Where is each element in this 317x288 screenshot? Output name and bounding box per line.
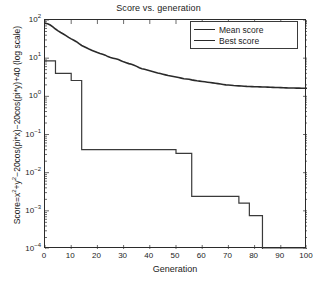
x-axis-tick-labels: 0102030405060708090100 — [0, 251, 317, 265]
legend-item-mean-score[interactable]: Mean score — [194, 24, 294, 35]
y-tick-label: 100 — [29, 91, 41, 100]
plot-svg — [45, 20, 307, 249]
legend-line-swatch-best — [194, 40, 215, 41]
x-tick-label: 10 — [66, 251, 75, 260]
x-tick-label: 50 — [171, 251, 180, 260]
x-axis-label: Generation — [44, 264, 306, 274]
y-tick-label: 102 — [29, 15, 41, 24]
series-line-best-score — [45, 61, 307, 249]
x-tick-label: 100 — [299, 251, 312, 260]
legend-line-swatch-mean — [194, 29, 215, 30]
chart-title: Score vs. generation — [0, 3, 317, 13]
y-tick-label: 101 — [29, 53, 41, 62]
y-axis-tick-labels: 10210110010−110−210−310−4 — [0, 0, 41, 288]
legend-item-best-score[interactable]: Best score — [194, 35, 294, 46]
legend-label-mean: Mean score — [219, 25, 263, 35]
x-tick-label: 30 — [118, 251, 127, 260]
plot-area — [44, 19, 306, 248]
x-tick-label: 60 — [197, 251, 206, 260]
x-tick-label: 20 — [92, 251, 101, 260]
y-tick-label: 10−1 — [25, 129, 41, 138]
x-tick-label: 80 — [249, 251, 258, 260]
figure-canvas: Score vs. generation Score=x2+y2−20cos(p… — [0, 0, 317, 288]
legend: Mean score Best score — [190, 21, 298, 49]
legend-label-best: Best score — [219, 36, 259, 46]
x-tick-label: 90 — [275, 251, 284, 260]
x-tick-label: 40 — [144, 251, 153, 260]
y-tick-label: 10−3 — [25, 205, 41, 214]
x-tick-label: 70 — [223, 251, 232, 260]
x-tick-label: 0 — [42, 251, 46, 260]
y-tick-label: 10−2 — [25, 167, 41, 176]
